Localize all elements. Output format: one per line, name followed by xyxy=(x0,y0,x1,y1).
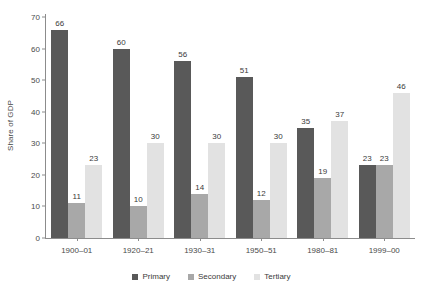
y-axis-tick-mark xyxy=(42,174,45,175)
bar-slot: 60 xyxy=(113,14,130,238)
bar-secondary[interactable]: 12 xyxy=(253,200,270,238)
bar-secondary[interactable]: 14 xyxy=(191,194,208,238)
bar-tertiary[interactable]: 30 xyxy=(270,143,287,238)
bar-group: 6010301920–21 xyxy=(108,14,170,238)
legend-swatch-icon xyxy=(132,274,138,280)
y-axis-tick-mark xyxy=(42,143,45,144)
bar-slot: 30 xyxy=(147,14,164,238)
y-axis-tick-mark xyxy=(42,206,45,207)
bar-primary[interactable]: 35 xyxy=(297,128,314,239)
legend-swatch-icon xyxy=(254,274,260,280)
x-axis-tick-mark xyxy=(138,238,139,241)
bar-group: 6611231900–01 xyxy=(46,14,108,238)
bar-value-label: 14 xyxy=(195,184,204,192)
bar-slot: 23 xyxy=(359,14,376,238)
bar-secondary[interactable]: 19 xyxy=(314,178,331,238)
bar-value-label: 11 xyxy=(73,193,81,201)
bar-slot: 19 xyxy=(314,14,331,238)
bar-group-bars: 661123 xyxy=(46,14,108,238)
bar-slot: 23 xyxy=(85,14,102,238)
bar-slot: 56 xyxy=(174,14,191,238)
bar-tertiary[interactable]: 30 xyxy=(147,143,164,238)
bar-value-label: 30 xyxy=(274,133,283,141)
chart-legend: PrimarySecondaryTertiary xyxy=(0,272,423,281)
plot-area: 010203040506070 6611231900–016010301920–… xyxy=(46,14,415,238)
bar-value-label: 37 xyxy=(335,111,344,119)
y-axis-tick-mark xyxy=(42,17,45,18)
bar-value-label: 51 xyxy=(240,67,249,75)
bar-value-label: 19 xyxy=(318,168,327,176)
x-axis-tick-mark xyxy=(384,238,385,241)
bar-value-label: 60 xyxy=(117,39,126,47)
bar-slot: 51 xyxy=(236,14,253,238)
bar-slot: 37 xyxy=(331,14,348,238)
legend-item-secondary[interactable]: Secondary xyxy=(188,272,236,281)
bar-group-bars: 561430 xyxy=(169,14,231,238)
bar-tertiary[interactable]: 37 xyxy=(331,121,348,238)
y-axis-title: Share of GDP xyxy=(2,0,18,250)
x-axis-tick-label: 1999–00 xyxy=(369,246,400,255)
bar-group: 2323461999–00 xyxy=(354,14,416,238)
bar-group-bars: 601030 xyxy=(108,14,170,238)
bar-chart: Share of GDP 010203040506070 6611231900–… xyxy=(0,0,423,299)
bar-secondary[interactable]: 11 xyxy=(68,203,85,238)
bar-slot: 11 xyxy=(68,14,85,238)
y-axis-tick-mark xyxy=(42,80,45,81)
bar-group-bars: 511230 xyxy=(231,14,293,238)
bar-slot: 12 xyxy=(253,14,270,238)
x-axis-tick-label: 1920–21 xyxy=(123,246,154,255)
bar-slot: 66 xyxy=(51,14,68,238)
bar-slot: 30 xyxy=(270,14,287,238)
bar-tertiary[interactable]: 23 xyxy=(85,165,102,238)
x-axis-tick-mark xyxy=(77,238,78,241)
x-axis-tick-label: 1950–51 xyxy=(246,246,277,255)
bar-primary[interactable]: 51 xyxy=(236,77,253,238)
bar-primary[interactable]: 66 xyxy=(51,30,68,238)
bar-group: 5112301950–51 xyxy=(231,14,293,238)
bar-primary[interactable]: 56 xyxy=(174,61,191,238)
bar-group: 3519371980–81 xyxy=(292,14,354,238)
bar-slot: 30 xyxy=(208,14,225,238)
x-axis-tick-mark xyxy=(261,238,262,241)
y-axis-tick-mark xyxy=(42,48,45,49)
bar-value-label: 12 xyxy=(257,190,266,198)
bar-slot: 14 xyxy=(191,14,208,238)
x-axis-tick-label: 1900–01 xyxy=(61,246,92,255)
bar-group-bars: 351937 xyxy=(292,14,354,238)
legend-item-primary[interactable]: Primary xyxy=(132,272,170,281)
bar-primary[interactable]: 60 xyxy=(113,49,130,238)
bar-slot: 10 xyxy=(130,14,147,238)
bar-secondary[interactable]: 23 xyxy=(376,165,393,238)
bar-tertiary[interactable]: 46 xyxy=(393,93,410,238)
bar-value-label: 56 xyxy=(178,51,187,59)
bar-group: 5614301930–31 xyxy=(169,14,231,238)
legend-item-tertiary[interactable]: Tertiary xyxy=(254,272,290,281)
x-axis-tick-mark xyxy=(323,238,324,241)
bar-value-label: 30 xyxy=(151,133,160,141)
x-axis-line xyxy=(45,238,415,239)
bar-secondary[interactable]: 10 xyxy=(130,206,147,238)
bar-value-label: 23 xyxy=(380,155,389,163)
bar-value-label: 66 xyxy=(55,20,64,28)
bar-value-label: 23 xyxy=(363,155,372,163)
bar-value-label: 23 xyxy=(89,155,98,163)
bar-slot: 46 xyxy=(393,14,410,238)
y-axis-title-text: Share of GDP xyxy=(6,99,15,150)
x-axis-tick-label: 1930–31 xyxy=(184,246,215,255)
legend-label: Primary xyxy=(142,272,170,281)
bar-primary[interactable]: 23 xyxy=(359,165,376,238)
bar-group-bars: 232346 xyxy=(354,14,416,238)
bar-value-label: 35 xyxy=(301,118,310,126)
bar-value-label: 10 xyxy=(134,196,143,204)
legend-swatch-icon xyxy=(188,274,194,280)
x-axis-tick-mark xyxy=(200,238,201,241)
y-axis-tick-mark xyxy=(42,238,45,239)
bar-tertiary[interactable]: 30 xyxy=(208,143,225,238)
bar-slot: 23 xyxy=(376,14,393,238)
bar-value-label: 30 xyxy=(212,133,221,141)
bar-groups: 6611231900–016010301920–215614301930–315… xyxy=(46,14,415,238)
legend-label: Tertiary xyxy=(264,272,290,281)
legend-label: Secondary xyxy=(198,272,236,281)
x-axis-tick-label: 1980–81 xyxy=(307,246,338,255)
bar-slot: 35 xyxy=(297,14,314,238)
